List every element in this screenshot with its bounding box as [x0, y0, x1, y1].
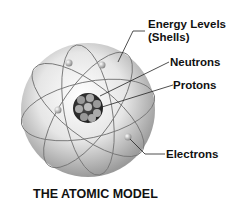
- label-energy-levels: Energy Levels(Shells): [148, 18, 226, 44]
- label-protons: Protons: [173, 79, 216, 92]
- label-neutrons: Neutrons: [170, 56, 220, 69]
- label-electrons: Electrons: [166, 148, 218, 161]
- diagram-title: THE ATOMIC MODEL: [33, 187, 158, 201]
